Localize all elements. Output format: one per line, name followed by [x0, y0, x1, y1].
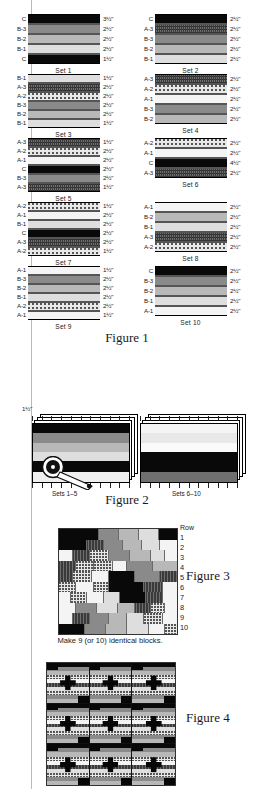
strip-label: A-2 — [17, 202, 26, 211]
block-patch — [160, 540, 177, 551]
strip-stack — [155, 266, 227, 316]
quilt-block — [47, 663, 90, 704]
fabric-strip-A1 — [155, 148, 227, 158]
block-patch — [146, 592, 163, 603]
block-patch — [142, 540, 161, 551]
block-patch — [94, 582, 108, 593]
block-patch — [144, 582, 163, 593]
strip-set-name: Set 10 — [127, 319, 254, 326]
ruler-tick — [198, 416, 199, 421]
strip-dimension: 1½" — [103, 54, 113, 64]
block-patch — [113, 561, 127, 572]
block-patch — [144, 613, 163, 624]
block-patch — [76, 603, 97, 614]
strip-label: B-3 — [144, 104, 153, 114]
quilt-block-corner — [90, 744, 101, 751]
fabric-strip-A2 — [28, 202, 100, 211]
ruler-tick — [179, 483, 180, 488]
ruler-tick — [150, 416, 151, 421]
fabric-strip-C — [28, 165, 100, 174]
strip-dimension: 2½" — [230, 44, 240, 54]
strip-set-set-10: CB-3B-2B-1A-12½"2½"2½"2½"2½"Set 10 — [127, 266, 254, 330]
strip-stack — [28, 266, 100, 320]
fabric-strip-C — [155, 266, 227, 276]
fabric-strip-B1 — [28, 74, 100, 83]
strip-label-column: A-1B-2B-1A-3A-2 — [127, 202, 155, 252]
strip-label: A-1 — [17, 156, 26, 165]
strip-label: A-2 — [17, 92, 26, 101]
strip-dimension-column: 1½"2½"2½"2½"2½"1½" — [100, 202, 127, 256]
strip-stack-right — [140, 414, 248, 486]
ruler-ticks-top-left — [32, 416, 130, 421]
strip-dimension: 2½" — [230, 266, 240, 276]
ruler-tick — [100, 416, 101, 421]
strip-label: A-3 — [144, 168, 153, 178]
cut-width-label: 1½" — [22, 406, 32, 412]
fabric-strip-B2 — [155, 114, 227, 124]
block-patch — [109, 582, 144, 593]
block-patch — [123, 540, 142, 551]
strip-dimension: 2½" — [230, 14, 240, 24]
ruler-tick — [150, 483, 151, 488]
pattern-page: CB-3B-2B-1C3½"2½"2½"2½"1½"Set 1CA-3B-3B-… — [0, 0, 254, 789]
strip-dimension: 2½" — [230, 242, 240, 252]
strip-dimension-column: 2½"2½"2½"2½"2½" — [227, 74, 254, 124]
strip-label: A-1 — [17, 311, 26, 320]
block-patch — [59, 592, 71, 603]
strip-dimension: 2½" — [230, 34, 240, 44]
strip-label: A-3 — [17, 83, 26, 92]
strip-dimension-column: 1½"2½"2½"2½"2½"1½" — [100, 266, 127, 320]
strip-dimension: 1½" — [103, 74, 113, 83]
block-patch — [151, 603, 165, 614]
block-row — [59, 624, 177, 635]
quilt-block-corner — [164, 778, 175, 785]
strip-label: C — [149, 158, 153, 168]
block-row — [59, 529, 177, 540]
ruler-tick — [90, 416, 91, 421]
block-patch — [151, 550, 165, 561]
block-patch — [119, 529, 139, 540]
block-patch — [109, 550, 130, 561]
ruler-tick — [71, 416, 72, 421]
ruler-tick — [129, 483, 130, 488]
block-patch — [127, 624, 148, 635]
strip-dimension: 2½" — [103, 165, 113, 174]
strip-label-column: A-1B-3B-2B-1A-2A-1 — [0, 266, 28, 320]
strip-dimension: 2½" — [103, 293, 113, 302]
strip-set-row: B-1A-3A-2B-3B-2B-11½"2½"2½"2½"2½"1½"Set … — [0, 74, 254, 138]
quilt-block — [90, 704, 133, 745]
strip-label: A-3 — [144, 24, 153, 34]
quilt-block — [47, 744, 90, 785]
quilt-block — [47, 704, 90, 745]
strip-dimension: 2½" — [230, 104, 240, 114]
strip-dimension-column: 2½"2½"2½"2½"2½" — [227, 266, 254, 316]
fabric-strip-A2 — [28, 92, 100, 101]
strip-set-set-9: A-1B-3B-2B-1A-2A-11½"2½"2½"2½"2½"1½"Set … — [0, 266, 127, 330]
block-patch — [104, 540, 123, 551]
quilt-block — [90, 663, 133, 704]
strip-set-name: Set 9 — [0, 323, 127, 330]
block-patch — [59, 603, 76, 614]
strip-label: A-2 — [144, 138, 153, 148]
strip-stack — [155, 202, 227, 252]
strip-label-column: A-2A-1B-1CA-3A-2 — [0, 202, 28, 256]
row-number: 8 — [180, 603, 200, 613]
quilt-block-corner — [90, 704, 101, 711]
strip-dimension: 2½" — [230, 168, 240, 178]
strip-label: B-2 — [144, 286, 153, 296]
quilt-block-corner — [78, 737, 89, 744]
block-row — [59, 561, 177, 572]
quilt-block-corner — [121, 696, 132, 703]
strip-label: B-2 — [17, 110, 26, 119]
strip-label: C — [149, 266, 153, 276]
strip-label: B-1 — [144, 222, 153, 232]
strip-label: C — [22, 54, 26, 64]
block-patch — [165, 603, 177, 614]
quilt-block-corner — [47, 744, 58, 751]
strip-dimension-column: 2½"2½"2½"2½"2½" — [227, 14, 254, 64]
strip-dimension: 2½" — [103, 92, 113, 101]
strip-label: A-3 — [17, 138, 26, 147]
fabric-strip-B1 — [28, 220, 100, 229]
strip-set-name: Set 5 — [0, 195, 127, 202]
strip-label: A-1 — [144, 202, 153, 212]
